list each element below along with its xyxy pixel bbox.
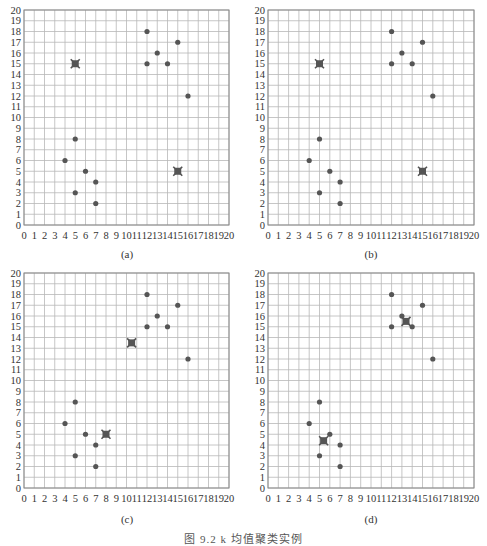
- svg-text:14: 14: [255, 69, 266, 80]
- x-axis-ticks: 01234567891011121314151617181920: [21, 230, 234, 241]
- svg-text:13: 13: [255, 343, 266, 354]
- svg-text:10: 10: [121, 493, 132, 504]
- svg-text:4: 4: [16, 440, 22, 451]
- svg-text:3: 3: [52, 230, 57, 241]
- data-point: [185, 356, 190, 361]
- svg-text:1: 1: [260, 209, 265, 220]
- svg-text:20: 20: [11, 268, 22, 279]
- svg-text:14: 14: [11, 332, 22, 343]
- svg-text:7: 7: [93, 230, 98, 241]
- svg-text:4: 4: [260, 440, 266, 451]
- svg-text:12: 12: [142, 493, 153, 504]
- grid-lines: [268, 273, 474, 488]
- svg-text:19: 19: [214, 230, 225, 241]
- svg-text:5: 5: [73, 230, 78, 241]
- data-point: [83, 432, 88, 437]
- svg-text:5: 5: [317, 493, 322, 504]
- svg-text:11: 11: [132, 493, 142, 504]
- svg-text:11: 11: [376, 493, 386, 504]
- svg-text:1: 1: [16, 209, 21, 220]
- svg-text:7: 7: [93, 493, 98, 504]
- data-point: [389, 29, 394, 34]
- svg-text:15: 15: [417, 230, 428, 241]
- svg-text:12: 12: [255, 91, 266, 102]
- svg-text:10: 10: [121, 230, 132, 241]
- svg-text:8: 8: [260, 134, 265, 145]
- svg-text:13: 13: [397, 493, 408, 504]
- data-point: [389, 292, 394, 297]
- svg-text:6: 6: [260, 418, 265, 429]
- data-point: [165, 61, 170, 66]
- svg-text:8: 8: [348, 230, 353, 241]
- data-point: [93, 201, 98, 206]
- svg-text:11: 11: [132, 230, 142, 241]
- svg-text:2: 2: [286, 230, 291, 241]
- svg-text:16: 16: [428, 493, 439, 504]
- svg-text:2: 2: [42, 230, 47, 241]
- svg-text:19: 19: [255, 278, 266, 289]
- svg-text:1: 1: [276, 493, 281, 504]
- data-point: [165, 324, 170, 329]
- centroid-x-icon: [71, 59, 80, 68]
- svg-text:5: 5: [73, 493, 78, 504]
- svg-text:11: 11: [255, 364, 265, 375]
- svg-text:13: 13: [255, 80, 266, 91]
- svg-text:7: 7: [260, 144, 265, 155]
- svg-text:18: 18: [448, 493, 459, 504]
- centroid-x-icon: [173, 167, 182, 176]
- data-point: [389, 324, 394, 329]
- scatter-plot-c: 0123456789101112131415161718192001234567…: [0, 263, 243, 508]
- svg-text:8: 8: [16, 397, 21, 408]
- svg-text:16: 16: [11, 48, 22, 59]
- svg-text:9: 9: [260, 123, 265, 134]
- data-point: [62, 421, 67, 426]
- svg-text:1: 1: [32, 230, 37, 241]
- svg-text:2: 2: [260, 198, 265, 209]
- svg-text:20: 20: [469, 493, 480, 504]
- y-axis-ticks: 01234567891011121314151617181920: [11, 268, 22, 494]
- grid-lines: [24, 10, 229, 225]
- svg-text:4: 4: [307, 493, 313, 504]
- data-point: [93, 464, 98, 469]
- svg-text:19: 19: [458, 493, 469, 504]
- svg-text:0: 0: [16, 483, 21, 494]
- svg-text:13: 13: [11, 80, 22, 91]
- svg-text:16: 16: [183, 230, 194, 241]
- svg-text:10: 10: [366, 493, 377, 504]
- svg-text:2: 2: [260, 461, 265, 472]
- data-point: [430, 93, 435, 98]
- data-point: [327, 169, 332, 174]
- svg-text:7: 7: [16, 144, 21, 155]
- data-point: [175, 40, 180, 45]
- data-point: [410, 61, 415, 66]
- svg-text:0: 0: [21, 493, 26, 504]
- svg-text:20: 20: [255, 268, 266, 279]
- svg-text:6: 6: [16, 418, 21, 429]
- panel-d: 0123456789101112131415161718192001234567…: [244, 263, 487, 528]
- data-point: [93, 442, 98, 447]
- data-point: [430, 356, 435, 361]
- svg-text:10: 10: [255, 375, 266, 386]
- svg-text:12: 12: [11, 91, 22, 102]
- grid-lines: [24, 273, 229, 488]
- svg-text:0: 0: [265, 230, 270, 241]
- svg-text:0: 0: [16, 220, 21, 231]
- data-point: [62, 158, 67, 163]
- svg-text:8: 8: [260, 397, 265, 408]
- svg-text:13: 13: [152, 230, 163, 241]
- data-point: [144, 324, 149, 329]
- svg-text:2: 2: [42, 493, 47, 504]
- svg-text:16: 16: [11, 311, 22, 322]
- grid-lines: [268, 10, 474, 225]
- scatter-plot-a: 0123456789101112131415161718192001234567…: [0, 0, 243, 245]
- svg-text:14: 14: [11, 69, 22, 80]
- svg-text:12: 12: [11, 354, 22, 365]
- svg-text:19: 19: [255, 15, 266, 26]
- data-point: [185, 93, 190, 98]
- x-axis-ticks: 01234567891011121314151617181920: [21, 493, 234, 504]
- data-point: [338, 179, 343, 184]
- panel-label-b: (b): [351, 248, 391, 260]
- svg-text:1: 1: [32, 493, 37, 504]
- data-point: [175, 303, 180, 308]
- svg-text:3: 3: [16, 187, 21, 198]
